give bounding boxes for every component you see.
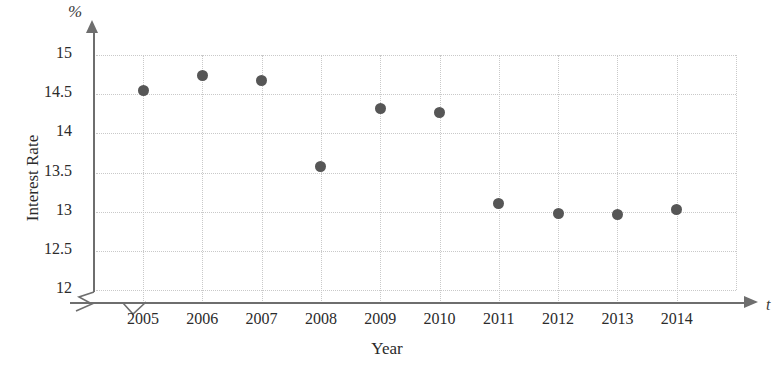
chart-figure: 1514.51413.51312.512 2005200620072008200… <box>0 0 774 368</box>
x-axis-arrow-icon <box>744 296 758 308</box>
data-point <box>671 204 682 215</box>
data-point <box>434 107 445 118</box>
gridline-vertical <box>558 55 559 303</box>
data-point <box>375 103 386 114</box>
plot-area: 1514.51413.51312.512 2005200620072008200… <box>0 0 774 368</box>
x-axis-title: Year <box>0 339 774 359</box>
gridline-vertical <box>262 55 263 303</box>
x-axis-variable-symbol: t <box>766 296 770 314</box>
gridline-horizontal <box>96 251 736 252</box>
gridline-horizontal <box>96 133 736 134</box>
gridline-horizontal <box>96 212 736 213</box>
gridline-vertical <box>440 55 441 303</box>
data-point <box>553 208 564 219</box>
x-axis-tick-label: 2014 <box>642 310 712 328</box>
gridline-vertical <box>736 55 737 290</box>
data-point <box>256 75 267 86</box>
gridline-vertical <box>499 55 500 303</box>
gridline-vertical <box>202 55 203 303</box>
data-point <box>138 85 149 96</box>
y-axis-unit-symbol: % <box>68 2 82 22</box>
y-axis-line <box>93 30 95 292</box>
data-point <box>197 70 208 81</box>
y-axis-tick-label: 15 <box>12 44 72 62</box>
gridline-horizontal <box>96 173 736 174</box>
y-axis-arrow-icon <box>86 20 98 33</box>
gridline-horizontal <box>96 94 736 95</box>
data-point <box>493 198 504 209</box>
y-axis-title: Interest Rate <box>23 83 43 273</box>
data-point <box>612 209 623 220</box>
y-axis-tick-label: 12 <box>12 279 72 297</box>
gridline-vertical <box>677 55 678 303</box>
gridline-horizontal <box>96 290 736 291</box>
gridline-vertical <box>380 55 381 303</box>
gridline-vertical <box>617 55 618 303</box>
gridline-vertical <box>321 55 322 303</box>
data-point <box>315 161 326 172</box>
x-axis-line <box>70 302 746 304</box>
gridline-horizontal <box>96 55 736 56</box>
